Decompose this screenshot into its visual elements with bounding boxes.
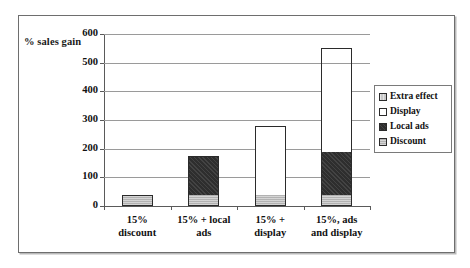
gridline xyxy=(104,34,370,35)
y-axis-tick-label: 100 xyxy=(58,171,98,182)
bar-3 xyxy=(255,126,286,206)
y-axis-tick xyxy=(100,149,104,150)
y-axis-tick xyxy=(100,177,104,178)
legend-label: Extra effect xyxy=(390,92,438,102)
bar-segment-localads xyxy=(188,156,219,195)
legend-label: Local ads xyxy=(390,122,429,132)
y-axis-tick xyxy=(100,91,104,92)
x-axis-tick xyxy=(104,206,105,210)
x-axis-tick xyxy=(304,206,305,210)
bar-4 xyxy=(321,48,352,206)
y-axis-tick-label: 600 xyxy=(58,28,98,39)
legend-label: Discount xyxy=(390,137,426,147)
bar-segment-discount xyxy=(255,195,286,206)
bar-segment-discount xyxy=(122,195,153,206)
legend-item-discount[interactable]: Discount xyxy=(379,134,448,149)
bar-segment-display xyxy=(321,86,352,152)
legend-swatch-extra xyxy=(379,93,387,101)
bar-2 xyxy=(188,156,219,206)
y-axis-tick-label: 300 xyxy=(58,114,98,125)
y-axis-tick-label: 400 xyxy=(58,85,98,96)
x-axis-category-label: 15%, adsand display xyxy=(294,213,380,239)
category-label-line: 15%, ads xyxy=(294,213,380,226)
bar-segment-extraeffect xyxy=(321,48,352,85)
bar-segment-localads xyxy=(321,152,352,195)
legend-swatch-discount xyxy=(379,138,387,146)
legend-item-extra[interactable]: Extra effect xyxy=(379,89,448,104)
legend-item-display[interactable]: Display xyxy=(379,104,448,119)
bar-segment-discount xyxy=(321,195,352,206)
y-axis-tick-label: 200 xyxy=(58,143,98,154)
legend-item-localads[interactable]: Local ads xyxy=(379,119,448,134)
legend-swatch-display xyxy=(379,108,387,116)
y-axis-tick xyxy=(100,120,104,121)
bar-1 xyxy=(122,195,153,206)
chart-legend: Extra effectDisplayLocal adsDiscount xyxy=(374,85,452,153)
legend-label: Display xyxy=(390,107,421,117)
y-axis-tick xyxy=(100,34,104,35)
x-axis-tick xyxy=(237,206,238,210)
plot-area: 0100200300400500600 xyxy=(104,34,370,206)
category-label-line: and display xyxy=(294,226,380,239)
y-axis-tick-label: 500 xyxy=(58,57,98,68)
x-axis-tick xyxy=(370,206,371,210)
legend-swatch-localads xyxy=(379,123,387,131)
bar-segment-discount xyxy=(188,195,219,206)
bar-segment-display xyxy=(255,126,286,195)
y-axis-tick-label: 0 xyxy=(58,200,98,211)
y-axis-tick xyxy=(100,63,104,64)
x-axis-tick xyxy=(171,206,172,210)
